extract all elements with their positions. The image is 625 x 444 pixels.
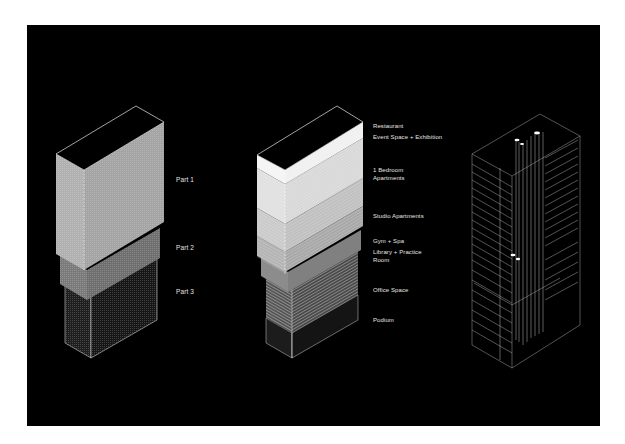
wireframe-floors-left	[472, 164, 512, 353]
label-studio-apartments: Studio Apartments	[373, 212, 424, 220]
wireframe-core	[500, 132, 543, 360]
building-wireframe	[472, 114, 580, 368]
label-part-1: Part 1	[176, 176, 194, 184]
label-1-bedroom-line2: Apartments	[373, 174, 405, 182]
wireframe-highlights	[511, 132, 541, 261]
building-parts-massing	[56, 106, 164, 358]
label-1-bedroom-line1: 1 Bedroom	[373, 166, 403, 174]
label-event-space: Event Space + Exhibition	[373, 133, 442, 141]
label-library-line2: Room	[373, 256, 389, 264]
label-part-3: Part 3	[176, 288, 194, 296]
label-restaurant: Restaurant	[373, 122, 403, 130]
label-office-space: Office Space	[373, 286, 408, 294]
diagram-canvas	[0, 0, 625, 444]
label-podium: Podium	[373, 316, 394, 324]
building-program-stack	[257, 106, 363, 358]
label-part-2: Part 2	[176, 244, 194, 252]
label-gym-spa: Gym + Spa	[373, 237, 404, 245]
wireframe-floors-right	[545, 140, 578, 300]
label-library-line1: Library + Practice	[373, 248, 422, 256]
